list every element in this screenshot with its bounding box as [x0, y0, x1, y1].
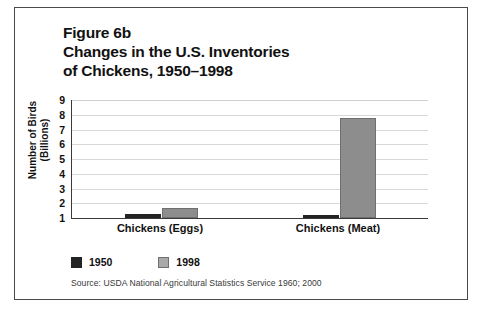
y-axis-title-line-2: (Billions)	[39, 80, 51, 200]
y-axis-tick-label: 3	[51, 184, 65, 194]
legend-label-1998: 1998	[176, 256, 199, 268]
bar-1950-eggs	[125, 214, 161, 218]
plot-area	[71, 100, 428, 219]
title-line-3: of Chickens, 1950–1998	[63, 61, 423, 80]
bar-1998-meat	[340, 118, 376, 218]
y-axis-tick-label: 5	[51, 154, 65, 164]
gridline	[72, 100, 428, 101]
y-axis-tick-label: 4	[51, 169, 65, 179]
gridline	[72, 115, 428, 116]
legend-item-1998: 1998	[158, 256, 199, 268]
bar-chart: Number of Birds (Billions) 987654321 Chi…	[15, 86, 469, 246]
x-axis-category-labels: Chickens (Eggs)Chickens (Meat)	[71, 222, 427, 240]
figure-title: Figure 6b Changes in the U.S. Inventorie…	[63, 23, 423, 80]
y-axis-title-line-1: Number of Birds	[27, 80, 39, 200]
y-axis-tick-label: 2	[51, 198, 65, 208]
bar-1950-meat	[303, 215, 339, 218]
title-line-1: Figure 6b	[63, 23, 423, 42]
legend-item-1950: 1950	[71, 256, 112, 268]
legend-swatch-icon-1950	[71, 257, 82, 268]
y-axis-tick-label: 8	[51, 110, 65, 120]
y-axis-tick-label: 1	[51, 213, 65, 223]
chart-legend: 19501998	[71, 256, 246, 268]
x-axis-label-eggs: Chickens (Eggs)	[117, 222, 203, 234]
y-axis-tick-labels: 987654321	[51, 100, 65, 218]
legend-swatch-icon-1998	[158, 257, 169, 268]
bar-1998-eggs	[162, 208, 198, 218]
y-axis-title: Number of Birds (Billions)	[27, 80, 51, 200]
y-axis-tick-label: 7	[51, 125, 65, 135]
title-line-2: Changes in the U.S. Inventories	[63, 42, 423, 61]
y-axis-tick-label: 9	[51, 95, 65, 105]
source-note: Source: USDA National Agricultural Stati…	[71, 278, 322, 288]
figure-frame: Figure 6b Changes in the U.S. Inventorie…	[14, 7, 468, 300]
x-axis-label-meat: Chickens (Meat)	[296, 222, 380, 234]
y-axis-tick-label: 6	[51, 139, 65, 149]
legend-label-1950: 1950	[89, 256, 112, 268]
